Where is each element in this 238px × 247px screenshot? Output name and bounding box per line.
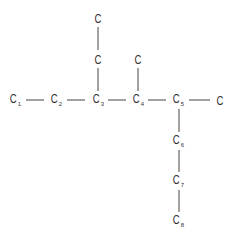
atom-c7: C7 bbox=[172, 174, 184, 191]
atom-symbol: C bbox=[173, 214, 180, 226]
atom-index: 5 bbox=[181, 101, 184, 107]
atom-symbol: C bbox=[173, 93, 180, 105]
atom-symbol: C bbox=[95, 13, 102, 25]
atom-c1: C1 bbox=[9, 93, 21, 110]
atom-symbol: C bbox=[51, 93, 58, 105]
atom-symbol: C bbox=[93, 93, 100, 105]
atom-c4-methyl: C bbox=[134, 54, 143, 66]
atom-symbol: C bbox=[133, 93, 140, 105]
atom-symbol: C bbox=[173, 174, 180, 186]
atom-c3: C3 bbox=[92, 93, 104, 110]
carbon-chain-diagram: C1C2C3C4C5CCCCC6C7C8 bbox=[0, 0, 238, 247]
atom-c3-ethyl-1: C bbox=[94, 54, 103, 66]
atom-c8: C8 bbox=[172, 214, 184, 231]
atom-symbol: C bbox=[217, 95, 224, 107]
atom-c5-methyl: C bbox=[216, 95, 225, 107]
atom-symbol: C bbox=[135, 54, 142, 66]
atom-symbol: C bbox=[173, 134, 180, 146]
atom-c6: C6 bbox=[172, 134, 184, 151]
atom-index: 6 bbox=[181, 142, 184, 148]
atom-index: 8 bbox=[181, 222, 184, 228]
atom-index: 1 bbox=[18, 101, 21, 107]
atom-c3-ethyl-2: C bbox=[94, 13, 103, 25]
atom-c5: C5 bbox=[172, 93, 184, 110]
atom-index: 4 bbox=[141, 101, 144, 107]
atom-index: 2 bbox=[59, 101, 62, 107]
atom-c4: C4 bbox=[132, 93, 144, 110]
atom-index: 3 bbox=[101, 101, 104, 107]
bond-layer bbox=[0, 0, 238, 247]
atom-symbol: C bbox=[95, 54, 102, 66]
atom-symbol: C bbox=[10, 93, 17, 105]
atom-c2: C2 bbox=[50, 93, 62, 110]
atom-index: 7 bbox=[181, 182, 184, 188]
